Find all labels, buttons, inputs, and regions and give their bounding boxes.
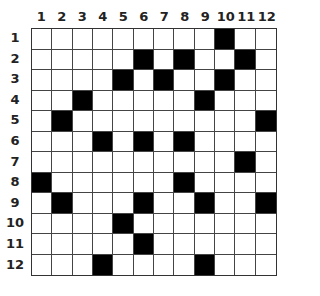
- empty-cell[interactable]: [195, 29, 215, 50]
- empty-cell[interactable]: [235, 234, 255, 255]
- empty-cell[interactable]: [215, 50, 235, 71]
- empty-cell[interactable]: [235, 214, 255, 235]
- empty-cell[interactable]: [52, 255, 72, 276]
- empty-cell[interactable]: [215, 193, 235, 214]
- empty-cell[interactable]: [174, 255, 194, 276]
- empty-cell[interactable]: [113, 234, 133, 255]
- empty-cell[interactable]: [93, 193, 113, 214]
- empty-cell[interactable]: [134, 111, 154, 132]
- empty-cell[interactable]: [256, 255, 276, 276]
- empty-cell[interactable]: [195, 132, 215, 153]
- empty-cell[interactable]: [134, 214, 154, 235]
- empty-cell[interactable]: [113, 29, 133, 50]
- empty-cell[interactable]: [134, 70, 154, 91]
- empty-cell[interactable]: [73, 214, 93, 235]
- empty-cell[interactable]: [256, 70, 276, 91]
- empty-cell[interactable]: [73, 50, 93, 71]
- empty-cell[interactable]: [195, 173, 215, 194]
- empty-cell[interactable]: [256, 214, 276, 235]
- empty-cell[interactable]: [52, 173, 72, 194]
- empty-cell[interactable]: [256, 173, 276, 194]
- empty-cell[interactable]: [174, 214, 194, 235]
- empty-cell[interactable]: [235, 173, 255, 194]
- empty-cell[interactable]: [215, 132, 235, 153]
- empty-cell[interactable]: [195, 234, 215, 255]
- empty-cell[interactable]: [174, 152, 194, 173]
- empty-cell[interactable]: [113, 91, 133, 112]
- empty-cell[interactable]: [32, 193, 52, 214]
- empty-cell[interactable]: [235, 193, 255, 214]
- empty-cell[interactable]: [73, 132, 93, 153]
- empty-cell[interactable]: [52, 29, 72, 50]
- empty-cell[interactable]: [93, 234, 113, 255]
- empty-cell[interactable]: [52, 234, 72, 255]
- empty-cell[interactable]: [32, 70, 52, 91]
- empty-cell[interactable]: [73, 255, 93, 276]
- empty-cell[interactable]: [215, 91, 235, 112]
- empty-cell[interactable]: [154, 193, 174, 214]
- empty-cell[interactable]: [215, 111, 235, 132]
- empty-cell[interactable]: [113, 50, 133, 71]
- empty-cell[interactable]: [154, 50, 174, 71]
- empty-cell[interactable]: [256, 29, 276, 50]
- empty-cell[interactable]: [256, 50, 276, 71]
- empty-cell[interactable]: [174, 193, 194, 214]
- empty-cell[interactable]: [73, 70, 93, 91]
- empty-cell[interactable]: [174, 91, 194, 112]
- empty-cell[interactable]: [174, 70, 194, 91]
- empty-cell[interactable]: [93, 173, 113, 194]
- empty-cell[interactable]: [32, 255, 52, 276]
- empty-cell[interactable]: [235, 70, 255, 91]
- empty-cell[interactable]: [154, 152, 174, 173]
- empty-cell[interactable]: [93, 111, 113, 132]
- empty-cell[interactable]: [256, 152, 276, 173]
- empty-cell[interactable]: [32, 132, 52, 153]
- empty-cell[interactable]: [93, 29, 113, 50]
- empty-cell[interactable]: [235, 111, 255, 132]
- empty-cell[interactable]: [52, 50, 72, 71]
- empty-cell[interactable]: [174, 234, 194, 255]
- empty-cell[interactable]: [154, 132, 174, 153]
- empty-cell[interactable]: [113, 193, 133, 214]
- empty-cell[interactable]: [256, 234, 276, 255]
- empty-cell[interactable]: [113, 132, 133, 153]
- empty-cell[interactable]: [73, 152, 93, 173]
- empty-cell[interactable]: [52, 70, 72, 91]
- empty-cell[interactable]: [235, 132, 255, 153]
- empty-cell[interactable]: [154, 214, 174, 235]
- empty-cell[interactable]: [174, 111, 194, 132]
- empty-cell[interactable]: [52, 152, 72, 173]
- empty-cell[interactable]: [52, 91, 72, 112]
- empty-cell[interactable]: [195, 152, 215, 173]
- empty-cell[interactable]: [93, 152, 113, 173]
- empty-cell[interactable]: [154, 255, 174, 276]
- empty-cell[interactable]: [256, 132, 276, 153]
- empty-cell[interactable]: [113, 255, 133, 276]
- empty-cell[interactable]: [32, 91, 52, 112]
- empty-cell[interactable]: [215, 255, 235, 276]
- empty-cell[interactable]: [134, 173, 154, 194]
- empty-cell[interactable]: [215, 173, 235, 194]
- empty-cell[interactable]: [215, 214, 235, 235]
- empty-cell[interactable]: [32, 29, 52, 50]
- empty-cell[interactable]: [73, 111, 93, 132]
- empty-cell[interactable]: [154, 234, 174, 255]
- empty-cell[interactable]: [73, 234, 93, 255]
- empty-cell[interactable]: [32, 111, 52, 132]
- empty-cell[interactable]: [154, 91, 174, 112]
- empty-cell[interactable]: [73, 193, 93, 214]
- empty-cell[interactable]: [113, 152, 133, 173]
- empty-cell[interactable]: [134, 91, 154, 112]
- empty-cell[interactable]: [215, 152, 235, 173]
- empty-cell[interactable]: [93, 50, 113, 71]
- empty-cell[interactable]: [195, 50, 215, 71]
- empty-cell[interactable]: [154, 29, 174, 50]
- empty-cell[interactable]: [32, 214, 52, 235]
- empty-cell[interactable]: [195, 111, 215, 132]
- empty-cell[interactable]: [113, 173, 133, 194]
- empty-cell[interactable]: [154, 173, 174, 194]
- empty-cell[interactable]: [154, 111, 174, 132]
- empty-cell[interactable]: [32, 234, 52, 255]
- empty-cell[interactable]: [32, 152, 52, 173]
- empty-cell[interactable]: [52, 214, 72, 235]
